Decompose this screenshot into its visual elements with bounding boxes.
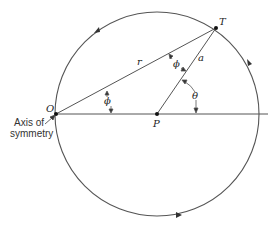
label-P: P	[152, 118, 160, 129]
arrow-top-left-icon	[94, 27, 100, 33]
axis-annotation-line2: symmetry	[10, 128, 53, 139]
label-T: T	[219, 16, 227, 27]
label-theta: θ	[192, 90, 198, 101]
label-a: a	[198, 52, 204, 63]
point-P	[155, 112, 159, 116]
label-O: O	[46, 103, 54, 114]
label-r: r	[137, 56, 143, 67]
segment-OT	[56, 28, 216, 114]
axis-annotation-line1: Axis of	[14, 117, 44, 128]
point-T	[214, 26, 218, 30]
label-phi-T: ϕ	[173, 58, 180, 69]
arrow-right-icon	[247, 59, 252, 66]
axis-annotation-pointer	[45, 115, 55, 124]
circle-geometry-diagram: ϕ ϕ θ r a T O P Axis of symmetry	[0, 0, 273, 226]
label-phi-O: ϕ	[104, 95, 111, 106]
